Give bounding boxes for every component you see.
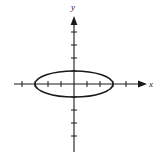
plot-canvas [0,0,160,160]
y-axis-label: y [71,3,75,12]
x-axis-group [14,81,147,88]
x-axis-arrowhead [138,81,147,88]
y-axis-arrowhead [71,16,78,25]
x-axis-label: x [149,80,153,89]
coordinate-plane-figure: y x [0,0,160,160]
